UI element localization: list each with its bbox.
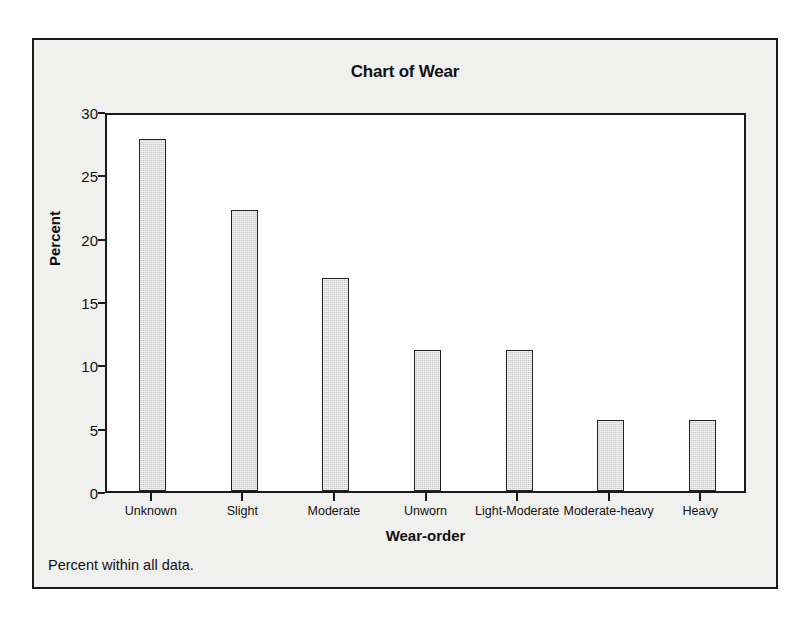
x-tick-label: Heavy — [682, 504, 717, 518]
x-tick-mark — [150, 493, 152, 501]
bar — [597, 420, 624, 491]
bar — [414, 350, 441, 491]
y-tick-mark — [98, 175, 105, 177]
bar — [322, 278, 349, 491]
chart-footnote: Percent within all data. — [48, 557, 194, 573]
x-tick-mark — [608, 493, 610, 501]
x-tick-label: Unknown — [125, 504, 177, 518]
y-tick-mark — [98, 429, 105, 431]
y-tick-mark — [98, 365, 105, 367]
x-axis-tick-marks — [105, 493, 746, 503]
x-tick-label: Moderate — [308, 504, 361, 518]
x-tick-mark — [425, 493, 427, 501]
plot-frame — [105, 113, 746, 493]
bar — [139, 139, 166, 491]
x-tick-label: Moderate-heavy — [563, 504, 653, 518]
x-tick-label: Light-Moderate — [475, 504, 559, 518]
x-tick-mark — [241, 493, 243, 501]
y-axis-tick-marks — [34, 113, 105, 493]
y-tick-mark — [98, 492, 105, 494]
x-tick-mark — [699, 493, 701, 501]
y-tick-mark — [98, 112, 105, 114]
x-tick-mark — [516, 493, 518, 501]
bar — [506, 350, 533, 491]
plot-area — [107, 115, 744, 491]
bar — [689, 420, 716, 491]
bar — [231, 210, 258, 491]
x-axis-title: Wear-order — [105, 527, 746, 544]
x-tick-label: Unworn — [404, 504, 447, 518]
x-tick-mark — [333, 493, 335, 501]
chart-title: Chart of Wear — [34, 62, 776, 82]
x-axis-tick-labels: UnknownSlightModerateUnwornLight-Moderat… — [105, 504, 746, 526]
y-tick-mark — [98, 302, 105, 304]
chart-figure: Chart of Wear Percent 051015202530 Unkno… — [32, 38, 778, 589]
x-tick-label: Slight — [227, 504, 258, 518]
y-tick-mark — [98, 239, 105, 241]
